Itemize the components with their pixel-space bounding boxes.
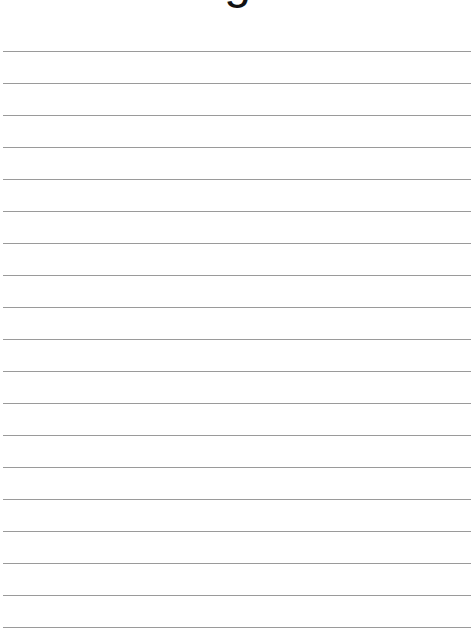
ruled-line [3,147,471,148]
ruled-line [3,563,471,564]
page-title-wrapper: g [0,0,475,10]
ruled-line [3,499,471,500]
ruled-line [3,403,471,404]
ruled-line [3,307,471,308]
ruled-line [3,627,471,628]
ruled-line [3,51,471,52]
page-title: g [224,0,251,8]
ruled-line [3,243,471,244]
ruled-line [3,595,471,596]
ruled-line [3,115,471,116]
ruled-line [3,83,471,84]
ruled-line [3,467,471,468]
ruled-line [3,371,471,372]
ruled-line [3,275,471,276]
ruled-line [3,339,471,340]
ruled-line [3,531,471,532]
ruled-line [3,179,471,180]
ruled-line [3,435,471,436]
ruled-line [3,211,471,212]
